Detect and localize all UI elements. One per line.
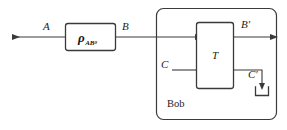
rho-state-label: ρAB0 [78,31,97,44]
rho-subscript-main: AB [85,39,94,47]
rho-symbol: ρ [78,30,85,45]
wire-C-label: C [161,59,168,70]
discard-u-bracket [256,87,269,96]
diagram-canvas: ρAB0 T A B C B′ C′ Bob [0,0,287,130]
wire-B-prime-label: B′ [241,19,250,30]
wire-C-prime-label: C′ [248,69,258,80]
rho-subscript-index: 0 [95,40,98,45]
transformation-T-label: T [212,50,218,61]
wire-A-label: A [43,21,50,32]
wire-B-label: B [122,21,129,32]
bob-region-label: Bob [167,99,185,110]
